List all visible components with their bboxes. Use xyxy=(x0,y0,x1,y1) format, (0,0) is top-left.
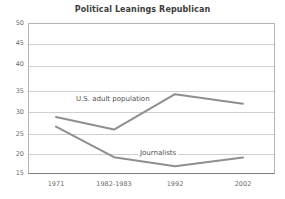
y-tick-label: 50 xyxy=(2,20,24,27)
x-tick-label-2002: 2002 xyxy=(235,180,252,188)
gridline-45 xyxy=(29,44,274,45)
y-tick-label: 20 xyxy=(2,151,24,158)
y-tick-label: 40 xyxy=(2,61,24,68)
chart-title: Political Leanings Republican xyxy=(0,5,285,14)
gridline-50 xyxy=(29,23,274,24)
x-tick-label-1971: 1971 xyxy=(48,180,65,188)
gridline-35 xyxy=(29,91,274,92)
x-tick-label-1982-1983: 1982-1983 xyxy=(96,180,131,188)
y-tick-label: 45 xyxy=(2,40,24,47)
x-tick-label-1992: 1992 xyxy=(167,180,184,188)
y-tick-label: 15 xyxy=(2,170,24,177)
gridline-30 xyxy=(29,112,274,113)
y-tick-label: 30 xyxy=(2,109,24,116)
y-tick-label: 25 xyxy=(2,131,24,138)
series-label-us-adult-population: U.S. adult population xyxy=(74,95,152,103)
series-label-journalists: Journalists xyxy=(138,149,178,157)
chart-container: Political Leanings Republican 50 45 40 3… xyxy=(0,0,285,199)
gridline-25 xyxy=(29,134,274,135)
gridline-40 xyxy=(29,66,274,67)
y-tick-label: 35 xyxy=(2,88,24,95)
